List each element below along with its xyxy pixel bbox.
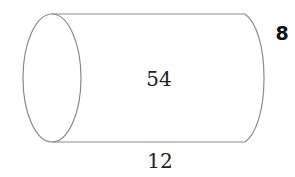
cylinder-left-face (23, 14, 81, 142)
cylinder-shape (23, 14, 264, 142)
center-label: 54 (146, 67, 171, 91)
right-label: 8 (275, 22, 288, 44)
cylinder-diagram: 54 12 8 (0, 0, 295, 177)
cylinder-right-arc (245, 14, 264, 142)
bottom-label: 12 (147, 149, 172, 173)
